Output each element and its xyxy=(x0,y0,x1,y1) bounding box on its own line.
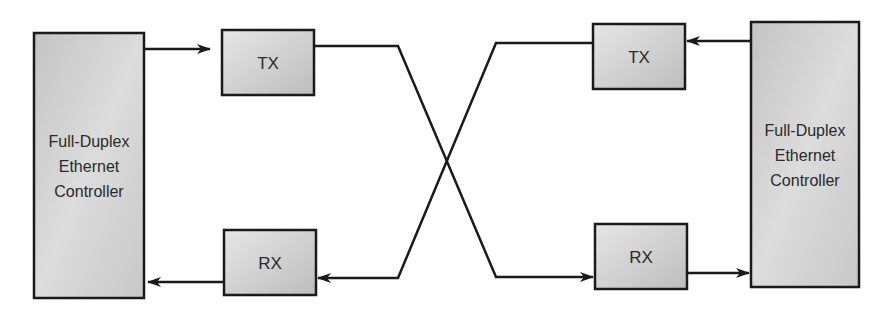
right-ethernet-controller: Full-Duplex Ethernet Controller xyxy=(751,22,859,287)
left-rx-label: RX xyxy=(258,254,282,273)
left-rx-box: RX xyxy=(224,230,316,295)
right-controller-line-2: Ethernet xyxy=(775,147,836,164)
left-tx-label: TX xyxy=(257,54,279,73)
left-controller-line-1: Full-Duplex xyxy=(49,133,130,150)
right-tx-label: TX xyxy=(628,48,650,67)
left-tx-box: TX xyxy=(222,30,314,95)
right-rx-label: RX xyxy=(629,248,653,267)
ethernet-crossover-diagram: Full-Duplex Ethernet Controller TX RX TX… xyxy=(0,0,887,316)
left-ethernet-controller: Full-Duplex Ethernet Controller xyxy=(34,33,144,298)
right-tx-box: TX xyxy=(593,24,685,89)
right-controller-line-3: Controller xyxy=(770,172,840,189)
left-controller-line-2: Ethernet xyxy=(59,158,120,175)
right-controller-line-1: Full-Duplex xyxy=(765,122,846,139)
crossover-line-left-tx-to-right-rx xyxy=(314,46,593,277)
right-rx-box: RX xyxy=(595,224,687,289)
crossover-line-right-tx-to-left-rx xyxy=(318,43,593,278)
left-controller-line-3: Controller xyxy=(54,183,124,200)
